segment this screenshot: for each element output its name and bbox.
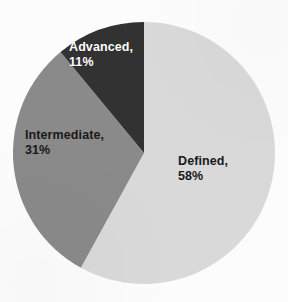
- pie-chart-graphic: [0, 0, 288, 302]
- pie-chart-figure: Advanced, 11% Intermediate, 31% Defined,…: [0, 0, 288, 302]
